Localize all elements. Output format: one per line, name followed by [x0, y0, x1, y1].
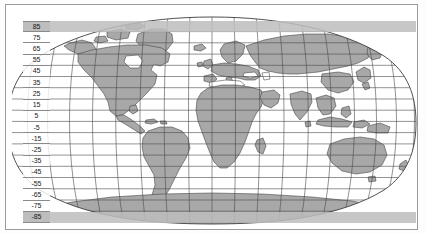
latitude-label: 45 — [33, 67, 41, 74]
latitude-label: -85 — [32, 213, 42, 220]
world-map-svg — [12, 10, 423, 234]
screenshot-viewport: 85 75 65 55 45 35 25 15 5 -5 -15 -25 -35… — [0, 0, 427, 234]
latitude-row[interactable]: 5 — [23, 111, 50, 122]
latitude-row[interactable]: -15 — [23, 133, 50, 144]
latitude-row[interactable]: 35 — [23, 77, 50, 88]
latitude-row[interactable]: -65 — [23, 189, 50, 200]
latitude-label: -65 — [32, 191, 42, 198]
latitude-label: 75 — [33, 34, 41, 41]
latitude-row[interactable]: 65 — [23, 43, 50, 54]
latitude-label: -45 — [32, 168, 42, 175]
latitude-label: 5 — [35, 112, 39, 119]
latitude-row[interactable]: 55 — [23, 55, 50, 66]
latitude-row[interactable]: 15 — [23, 100, 50, 111]
latitude-row[interactable]: -25 — [23, 144, 50, 155]
figure-frame: 85 75 65 55 45 35 25 15 5 -5 -15 -25 -35… — [5, 4, 418, 230]
latitude-label: -25 — [32, 146, 42, 153]
latitude-row[interactable]: -85 — [23, 212, 50, 223]
latitude-label: -15 — [32, 135, 42, 142]
latitude-label: 85 — [33, 23, 41, 30]
latitude-row[interactable]: -55 — [23, 178, 50, 189]
latitude-label: -35 — [32, 157, 42, 164]
latitude-label: 25 — [33, 90, 41, 97]
latitude-row[interactable]: -5 — [23, 122, 50, 133]
latitude-axis[interactable]: 85 75 65 55 45 35 25 15 5 -5 -15 -25 -35… — [23, 21, 50, 223]
highlight-band-minus-85 — [23, 212, 416, 223]
latitude-label: 35 — [33, 79, 41, 86]
latitude-row[interactable]: -35 — [23, 156, 50, 167]
latitude-label: 15 — [33, 101, 41, 108]
world-map[interactable] — [12, 10, 423, 234]
latitude-label: -55 — [32, 180, 42, 187]
latitude-row[interactable]: 85 — [23, 21, 50, 32]
latitude-label: 65 — [33, 45, 41, 52]
latitude-label: -5 — [33, 124, 39, 131]
latitude-row[interactable]: -45 — [23, 167, 50, 178]
latitude-label: 55 — [33, 56, 41, 63]
highlight-band-85 — [23, 21, 416, 32]
latitude-row[interactable]: -75 — [23, 201, 50, 212]
latitude-row[interactable]: 45 — [23, 66, 50, 77]
latitude-label: -75 — [32, 202, 42, 209]
latitude-row[interactable]: 25 — [23, 88, 50, 99]
latitude-row[interactable]: 75 — [23, 32, 50, 43]
